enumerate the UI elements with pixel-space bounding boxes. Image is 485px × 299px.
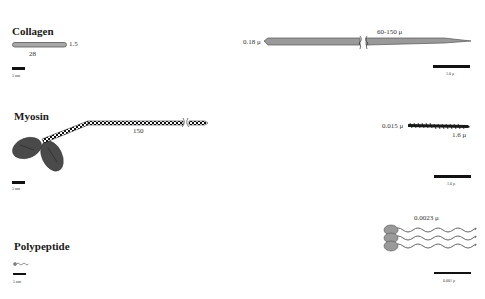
myosin-fiber-scale-label: 1.0 μ xyxy=(447,181,455,186)
myosin-fiber xyxy=(408,122,472,130)
collagen-length-label: 28 xyxy=(29,50,36,58)
polypeptide-triple-helix xyxy=(383,226,475,252)
collagen-scale-label: 5 nm xyxy=(12,73,20,78)
polypeptide-molecule xyxy=(13,261,29,267)
polypeptide-scale-label: 5 nm xyxy=(13,279,21,284)
collagen-molecule-rod xyxy=(12,42,68,48)
polypeptide-title: Polypeptide xyxy=(14,240,70,252)
polypeptide-fiber-length-label: 0.0023 μ xyxy=(414,214,439,222)
collagen-width-label: 1.5 xyxy=(69,40,78,48)
myosin-scale-bar xyxy=(12,181,25,184)
collagen-scale-bar xyxy=(12,67,25,70)
collagen-fiber xyxy=(264,34,474,50)
collagen-title: Collagen xyxy=(12,25,54,37)
polypeptide-scale-bar xyxy=(13,273,26,275)
myosin-fiber-length-label: 1.6 μ xyxy=(452,131,466,139)
polypeptide-fiber-scale-label: 0.001 μ xyxy=(443,278,455,283)
collagen-fiber-scale-label: 1.0 μ xyxy=(446,71,454,76)
collagen-fiber-length-label: 60-150 μ xyxy=(377,28,402,36)
myosin-length-label: 150 xyxy=(133,127,144,135)
myosin-scale-label: 5 nm xyxy=(12,186,20,191)
myosin-fiber-scale-bar xyxy=(434,175,471,178)
myosin-fiber-diameter-label: 0.015 μ xyxy=(382,122,403,130)
collagen-fiber-diameter-label: 0.18 μ xyxy=(243,38,261,46)
polypeptide-fiber-scale-bar xyxy=(434,272,471,274)
myosin-molecule xyxy=(10,118,215,180)
collagen-fiber-scale-bar xyxy=(433,65,470,68)
